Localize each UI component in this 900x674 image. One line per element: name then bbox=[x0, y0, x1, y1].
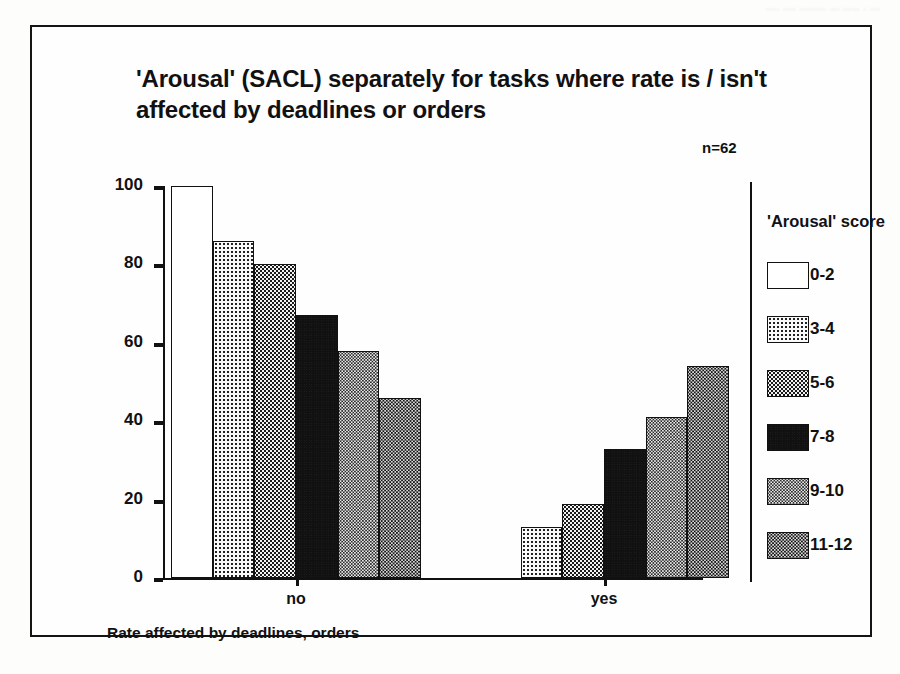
bar bbox=[687, 366, 729, 578]
legend-swatch-icon bbox=[767, 316, 809, 343]
legend-item-label: 7-8 bbox=[810, 427, 835, 447]
x-axis-tick bbox=[296, 578, 299, 586]
legend-swatch-icon bbox=[767, 478, 809, 505]
sample-size-label: n=62 bbox=[702, 139, 737, 156]
legend-item-label: 0-2 bbox=[810, 265, 835, 285]
legend-swatch-icon bbox=[767, 424, 809, 451]
y-axis-tick bbox=[154, 578, 163, 582]
x-axis-tick-label: no bbox=[236, 590, 356, 608]
x-axis-tick-label: yes bbox=[544, 590, 664, 608]
legend-rows: 0-23-45-67-89-1011-12 bbox=[767, 261, 897, 559]
running-head: .... .... ........ ... ..... . ... bbox=[430, 0, 880, 12]
bar bbox=[604, 449, 646, 578]
legend-item: 7-8 bbox=[767, 423, 897, 451]
y-axis-tick-label: 20 bbox=[97, 489, 143, 509]
legend-item: 5-6 bbox=[767, 369, 897, 397]
chart-title: 'Arousal' (SACL) separately for tasks wh… bbox=[136, 63, 796, 125]
y-axis-tick bbox=[154, 421, 163, 425]
y-axis-tick-label: 80 bbox=[97, 253, 143, 273]
y-axis-tick-label: 60 bbox=[97, 332, 143, 352]
legend-item-label: 3-4 bbox=[810, 319, 835, 339]
bar bbox=[562, 504, 604, 578]
bar bbox=[521, 527, 563, 578]
y-axis-line bbox=[163, 186, 165, 578]
bar bbox=[296, 315, 338, 578]
y-axis-tick-label: 0 bbox=[97, 567, 143, 587]
legend-item-label: 5-6 bbox=[810, 373, 835, 393]
bar bbox=[338, 351, 380, 578]
y-axis-tick bbox=[154, 343, 163, 347]
y-axis-tick-label: 100 bbox=[97, 175, 143, 195]
legend-item-label: 9-10 bbox=[810, 481, 844, 501]
bar bbox=[213, 241, 255, 578]
bar bbox=[254, 264, 296, 578]
bar bbox=[379, 398, 421, 578]
legend-item: 0-2 bbox=[767, 261, 897, 289]
legend: 'Arousal' score 0-23-45-67-89-1011-12 bbox=[767, 212, 897, 585]
x-axis-title: Rate affected by deadlines, orders bbox=[107, 624, 359, 642]
y-axis-tick bbox=[154, 264, 163, 268]
figure-frame: 'Arousal' (SACL) separately for tasks wh… bbox=[30, 25, 872, 637]
legend-divider bbox=[750, 182, 752, 582]
legend-item: 9-10 bbox=[767, 477, 897, 505]
legend-item: 11-12 bbox=[767, 531, 897, 559]
x-axis-tick bbox=[604, 578, 607, 586]
plot-area: 020406080100 noyes bbox=[163, 186, 703, 578]
x-axis-line bbox=[163, 578, 703, 580]
legend-title: 'Arousal' score bbox=[767, 212, 897, 231]
y-axis-tick bbox=[154, 500, 163, 504]
y-axis-tick-label: 40 bbox=[97, 410, 143, 430]
bar bbox=[171, 186, 213, 578]
legend-item: 3-4 bbox=[767, 315, 897, 343]
y-axis-tick bbox=[154, 186, 163, 190]
legend-swatch-icon bbox=[767, 532, 809, 559]
legend-swatch-icon bbox=[767, 370, 809, 397]
legend-swatch-icon bbox=[767, 262, 809, 289]
legend-item-label: 11-12 bbox=[810, 535, 853, 555]
bar bbox=[646, 417, 688, 578]
